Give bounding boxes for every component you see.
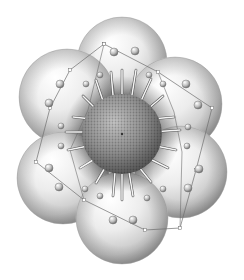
central-sphere: [82, 94, 162, 174]
frame-vertex: [179, 227, 182, 230]
frame-vertex: [35, 161, 38, 164]
frame-vertex: [144, 229, 147, 232]
frame-vertex: [157, 71, 160, 74]
ball-node: [144, 195, 150, 201]
ball-node: [58, 143, 64, 149]
molecule-illustration: [0, 0, 244, 280]
ball-node: [97, 193, 103, 199]
ball-node: [146, 72, 152, 78]
ball-node: [185, 124, 191, 130]
frame-vertex: [211, 107, 214, 110]
ball-node: [184, 143, 190, 149]
ball-node: [110, 48, 118, 56]
ball-node: [56, 80, 64, 88]
ball-node: [109, 216, 117, 224]
ball-node: [97, 72, 103, 78]
ball-node: [195, 165, 203, 173]
ball-node: [129, 216, 137, 224]
ball-node: [182, 80, 190, 88]
ball-node: [131, 47, 139, 55]
ball-node: [45, 164, 53, 172]
frame-vertex: [69, 69, 72, 72]
core-center-dot: [121, 133, 123, 135]
frame-vertex: [83, 199, 86, 202]
ball-node: [83, 81, 89, 87]
ball-node: [55, 183, 63, 191]
ball-node: [58, 123, 64, 129]
ball-node: [194, 101, 202, 109]
ball-node: [45, 99, 53, 107]
frame-vertex: [103, 43, 106, 46]
ball-node: [184, 184, 192, 192]
ball-node: [160, 81, 166, 87]
ball-node: [82, 186, 88, 192]
ball-node: [160, 186, 166, 192]
